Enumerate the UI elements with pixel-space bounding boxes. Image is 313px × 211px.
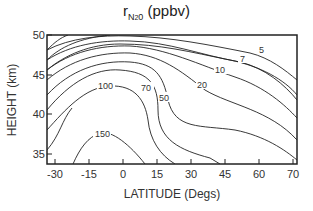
y-axis-label: HEIGHT (km) (5, 64, 19, 136)
contour-label-150: 150 (95, 129, 110, 139)
svg-text:45: 45 (219, 168, 231, 180)
svg-text:35: 35 (33, 148, 45, 160)
x-tick-labels: -30 -15 0 15 30 45 60 70 (47, 168, 299, 180)
contour-label-20: 20 (197, 80, 207, 90)
svg-text:70: 70 (287, 168, 299, 180)
svg-text:60: 60 (253, 168, 265, 180)
contour-plot: 5 7 10 20 50 70 100 150 -30 -15 (0, 0, 313, 211)
svg-text:15: 15 (151, 168, 163, 180)
svg-text:-30: -30 (47, 168, 63, 180)
svg-text:0: 0 (120, 168, 126, 180)
svg-text:-15: -15 (81, 168, 97, 180)
y-tick-labels: 35 40 45 50 (33, 29, 45, 160)
contour-label-10: 10 (215, 65, 225, 75)
svg-text:50: 50 (33, 29, 45, 41)
x-axis-label: LATITUDE (Degs) (124, 187, 220, 201)
contour-label-50: 50 (159, 93, 169, 103)
contour-label-100: 100 (98, 81, 113, 91)
svg-text:40: 40 (33, 108, 45, 120)
contour-label-5: 5 (259, 45, 264, 55)
svg-text:45: 45 (33, 69, 45, 81)
contour-label-7: 7 (240, 54, 245, 64)
contour-label-70: 70 (141, 83, 151, 93)
svg-text:30: 30 (185, 168, 197, 180)
contour-labels: 5 7 10 20 50 70 100 150 (93, 44, 265, 139)
